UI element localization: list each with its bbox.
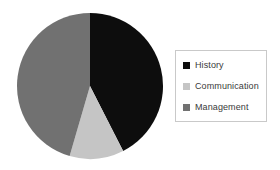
pie-slice-group bbox=[17, 13, 163, 159]
legend-swatch-management bbox=[183, 104, 190, 111]
legend-item-communication[interactable]: Communication bbox=[183, 78, 260, 94]
legend-label-history: History bbox=[195, 60, 224, 70]
legend-item-history[interactable]: History bbox=[183, 57, 260, 73]
legend-item-management[interactable]: Management bbox=[183, 99, 260, 115]
legend-swatch-communication bbox=[183, 83, 190, 90]
pie-chart-svg bbox=[16, 12, 164, 160]
chart-page: History Communication Management bbox=[0, 0, 280, 170]
pie-chart bbox=[16, 12, 164, 160]
chart-legend: History Communication Management bbox=[175, 50, 267, 122]
legend-label-communication: Communication bbox=[195, 81, 259, 91]
legend-swatch-history bbox=[183, 62, 190, 69]
legend-label-management: Management bbox=[195, 102, 249, 112]
